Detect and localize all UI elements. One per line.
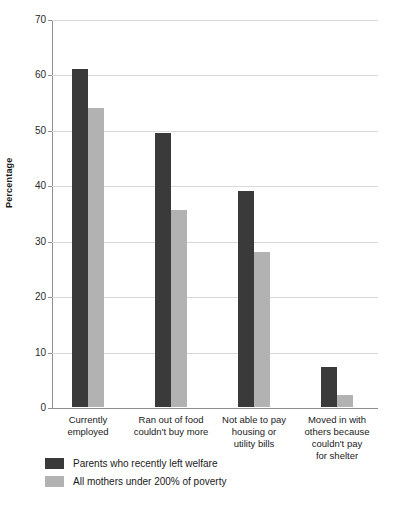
bar: [171, 210, 187, 407]
plot-area: 010203040506070: [52, 20, 378, 408]
y-tick-label: 60: [35, 70, 46, 80]
y-tick-mark: [48, 20, 52, 21]
bar: [254, 252, 270, 407]
y-axis-title: Percentage: [4, 108, 14, 208]
y-tick-mark: [48, 75, 52, 76]
legend-item: Parents who recently left welfare: [45, 458, 226, 469]
x-category-label: Moved in withothers becausecouldn't payf…: [288, 414, 386, 462]
y-tick-label: 0: [40, 403, 46, 413]
light-swatch-icon: [45, 476, 64, 487]
dark-swatch-icon: [45, 458, 64, 469]
y-tick-label: 70: [35, 15, 46, 25]
y-tick-mark: [48, 242, 52, 243]
legend-label: All mothers under 200% of poverty: [73, 476, 226, 487]
legend-label: Parents who recently left welfare: [73, 458, 218, 469]
x-axis-line: [52, 408, 378, 409]
x-category-label-line: Moved in with: [288, 414, 386, 426]
bar: [337, 395, 353, 407]
x-category-label-line: couldn't pay: [288, 438, 386, 450]
y-axis-line: [52, 20, 53, 409]
bar: [72, 69, 88, 407]
y-tick-mark: [48, 131, 52, 132]
y-tick-label: 10: [35, 348, 46, 358]
bar: [155, 133, 171, 407]
gridline: [52, 75, 378, 76]
legend-item: All mothers under 200% of poverty: [45, 476, 226, 487]
y-tick-label: 40: [35, 181, 46, 191]
y-tick-mark: [48, 408, 52, 409]
y-tick-mark: [48, 353, 52, 354]
y-tick-label: 20: [35, 292, 46, 302]
bar: [321, 367, 337, 407]
y-tick-label: 50: [35, 126, 46, 136]
bar-chart: Percentage 010203040506070 Currentlyempl…: [0, 0, 396, 509]
bar: [238, 191, 254, 407]
x-category-label-line: for shelter: [288, 450, 386, 462]
legend: Parents who recently left welfareAll mot…: [45, 458, 226, 494]
y-tick-mark: [48, 297, 52, 298]
y-tick-label: 30: [35, 237, 46, 247]
y-tick-mark: [48, 186, 52, 187]
gridline: [52, 20, 378, 21]
bar: [88, 108, 104, 407]
x-category-label-line: others because: [288, 426, 386, 438]
